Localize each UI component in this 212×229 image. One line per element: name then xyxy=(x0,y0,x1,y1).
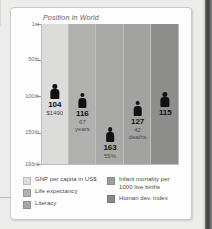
secondary-value-label: 42 xyxy=(129,127,147,135)
rank-value-label: 163 xyxy=(103,143,116,153)
legend-label: Life expectancy xyxy=(35,188,77,196)
secondary-value-label: deaths xyxy=(129,134,147,142)
legend-label-line: Literacy xyxy=(35,200,56,208)
legend-item: Infant mortality per1000 live births xyxy=(107,176,181,191)
legend-label: Infant mortality per1000 live births xyxy=(119,176,170,191)
legend-label-line: GNP per capita in US$ xyxy=(35,176,97,184)
data-marker: 12742deaths xyxy=(129,101,147,142)
person-icon-head xyxy=(80,93,85,98)
person-icon xyxy=(105,127,116,142)
legend-label-line: Human dev. index xyxy=(119,195,168,203)
person-icon-body xyxy=(78,98,87,108)
person-icon-head xyxy=(53,84,58,89)
legend-label: Human dev. index xyxy=(119,195,168,203)
legend-item: Human dev. index xyxy=(107,195,181,204)
y-axis-tick-label: 100th xyxy=(15,93,39,99)
chart-card: Position in World 1st50th100th150th193rd… xyxy=(10,7,192,220)
data-marker: 104$1490 xyxy=(46,84,63,118)
y-axis-tick-label: 150th xyxy=(15,129,39,135)
legend-item: GNP per capita in US$ xyxy=(23,176,107,185)
secondary-value-label: 67 xyxy=(75,119,90,127)
legend-label: GNP per capita in US$ xyxy=(35,176,97,184)
person-icon-head xyxy=(135,101,140,106)
y-axis-tick-label: 193rd xyxy=(15,161,39,167)
legend-item: Literacy xyxy=(23,200,107,209)
legend-swatch xyxy=(107,177,115,185)
data-marker: 11667years xyxy=(75,93,90,134)
rank-value-label: 127 xyxy=(129,117,147,127)
chart-title: Position in World xyxy=(43,14,99,21)
y-axis-tick-label: 50th xyxy=(15,56,39,62)
legend-label-line: 1000 live births xyxy=(119,184,170,192)
legend-swatch xyxy=(107,195,115,203)
legend: GNP per capita in US$Life expectancyLite… xyxy=(23,176,181,214)
rank-value-label: 116 xyxy=(75,109,90,119)
legend-item: Life expectancy xyxy=(23,188,107,197)
y-axis-tick-label: 1st xyxy=(15,21,39,27)
person-icon xyxy=(77,93,88,108)
person-icon-head xyxy=(108,127,113,132)
person-icon-head xyxy=(163,92,168,97)
rank-value-label: 115 xyxy=(159,108,172,118)
person-icon-body xyxy=(161,97,170,107)
legend-swatch xyxy=(23,201,31,209)
chart-column xyxy=(124,24,152,164)
secondary-value-label: 55% xyxy=(103,153,116,161)
data-marker: 115 xyxy=(159,92,172,118)
person-icon xyxy=(132,101,143,116)
legend-label-line: Life expectancy xyxy=(35,188,77,196)
legend-column-left: GNP per capita in US$Life expectancyLite… xyxy=(23,176,107,214)
legend-swatch xyxy=(23,189,31,197)
person-icon-body xyxy=(51,89,60,99)
secondary-value-label: years xyxy=(75,126,90,134)
plot-bottom-axis xyxy=(41,164,179,165)
person-icon-body xyxy=(106,132,115,142)
legend-label-line: Infant mortality per xyxy=(119,176,170,184)
secondary-value-label: $1490 xyxy=(46,110,63,118)
legend-swatch xyxy=(23,177,31,185)
legend-column-right: Infant mortality per1000 live birthsHuma… xyxy=(107,176,181,214)
person-icon-body xyxy=(133,106,142,116)
rank-value-label: 104 xyxy=(46,100,63,110)
legend-label: Literacy xyxy=(35,200,56,208)
data-marker: 16355% xyxy=(103,127,116,161)
person-icon xyxy=(49,84,60,99)
scan-edge-mark-top xyxy=(0,0,1,26)
page-edge-shadow xyxy=(205,0,212,229)
person-icon xyxy=(160,92,171,107)
